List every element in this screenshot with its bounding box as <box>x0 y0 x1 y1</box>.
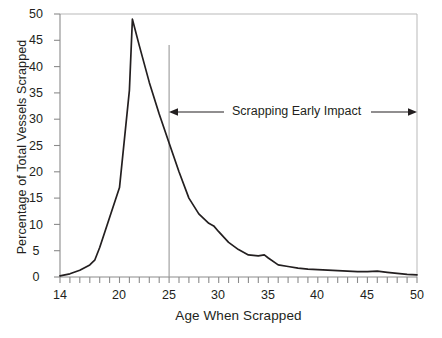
x-tick-label: 25 <box>155 288 183 302</box>
y-tick-label: 50 <box>22 7 50 21</box>
x-tick-label: 45 <box>353 288 381 302</box>
y-tick-label: 35 <box>22 86 50 100</box>
x-tick-label: 20 <box>105 288 133 302</box>
y-tick-label: 5 <box>22 244 50 258</box>
x-tick-label: 14 <box>46 288 74 302</box>
y-tick-label: 10 <box>22 218 50 232</box>
y-tick-label: 45 <box>22 33 50 47</box>
y-tick-label: 0 <box>22 270 50 284</box>
x-tick-label: 35 <box>254 288 282 302</box>
x-tick-label: 40 <box>303 288 331 302</box>
y-tick-label: 30 <box>22 112 50 126</box>
y-tick-label: 15 <box>22 191 50 205</box>
annotation-label-scrapping-early-impact: Scrapping Early Impact <box>232 104 361 118</box>
y-tick-label: 20 <box>22 165 50 179</box>
x-tick-label: 50 <box>403 288 431 302</box>
y-tick-label: 40 <box>22 60 50 74</box>
y-axis-ticks <box>54 14 60 277</box>
x-tick-label: 30 <box>204 288 232 302</box>
x-axis-ticks <box>60 277 417 283</box>
data-line-percentage-scrapped <box>60 19 417 276</box>
y-tick-label: 25 <box>22 139 50 153</box>
x-axis-title: Age When Scrapped <box>60 308 417 323</box>
plot-frame <box>60 14 417 277</box>
